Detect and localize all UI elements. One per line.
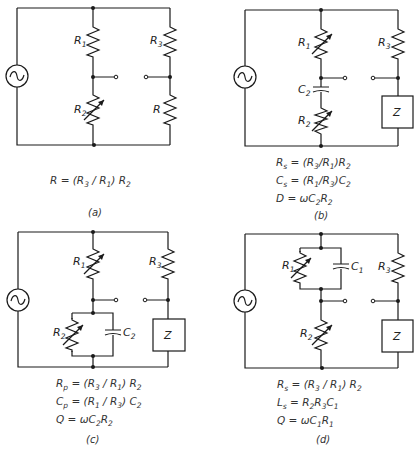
terminal-icon — [114, 75, 118, 79]
panel-a-equations: R = (R3 / R1) R2 (a) — [50, 174, 131, 218]
resistor-r1-icon — [87, 25, 99, 59]
panel-c-equations: Rp = (R3 / R1) R2 Cp = (R1 / R3) C2 Q = … — [56, 377, 142, 445]
capacitor-c2-icon — [105, 330, 121, 335]
label-r1: R1 — [74, 34, 86, 49]
capacitor-c2-icon — [313, 87, 329, 92]
caption-d: (d) — [316, 434, 330, 445]
equation-rp: Rp = (R3 / R1) R2 — [56, 377, 142, 392]
equation-rs: Rs = (R3/R1)R2 — [276, 156, 351, 171]
ac-source-icon — [234, 290, 256, 312]
label-z: Z — [163, 329, 172, 342]
resistor-r1-icon — [294, 251, 306, 285]
label-r2: R2 — [53, 326, 66, 341]
label-r2: R2 — [74, 103, 87, 118]
resistor-r3-icon — [392, 251, 404, 285]
panel-b-circuit: R1 C2 R2 R3 Z — [234, 8, 413, 148]
label-r1: R1 — [298, 36, 310, 51]
resistor-r1-icon — [315, 27, 327, 61]
caption-a: (a) — [88, 207, 102, 218]
label-r3: R3 — [150, 34, 163, 49]
ac-source-icon — [6, 65, 28, 87]
label-r3: R3 — [149, 255, 162, 270]
equation-r: R = (R3 / R1) R2 — [50, 174, 131, 189]
label-c2: C2 — [298, 83, 311, 98]
label-r1: R1 — [73, 255, 85, 270]
resistor-r2-icon — [66, 318, 78, 352]
label-r1: R1 — [282, 259, 294, 274]
label-z: Z — [392, 330, 401, 343]
resistor-r3-icon — [164, 25, 176, 59]
resistor-r3-icon — [162, 247, 174, 281]
equation-rs: Rs = (R3 / R1) R2 — [277, 378, 362, 393]
terminal-icon — [144, 75, 148, 79]
label-r: R — [153, 103, 161, 116]
resistor-r-icon — [164, 93, 176, 127]
resistor-r3-icon — [392, 27, 404, 61]
label-c2: C2 — [123, 326, 136, 341]
caption-b: (b) — [314, 210, 328, 221]
panel-d-circuit: R1 C1 R2 R3 Z — [234, 232, 413, 370]
label-r3: R3 — [378, 36, 391, 51]
label-r2: R2 — [298, 114, 311, 129]
label-r3: R3 — [378, 260, 391, 275]
resistor-r2-icon — [315, 106, 327, 136]
equation-cs: Cs = (R1/R3)C2 — [276, 174, 351, 189]
equation-cp: Cp = (R1 / R3) C2 — [56, 395, 142, 410]
ac-source-icon — [7, 289, 29, 311]
label-c1: C1 — [351, 260, 363, 275]
capacitor-c1-icon — [333, 264, 349, 269]
caption-c: (c) — [86, 434, 99, 445]
equation-ls: Ls = R2R3C1 — [277, 396, 339, 411]
panel-b-equations: Rs = (R3/R1)R2 Cs = (R1/R3)C2 D = ωC2R2 … — [276, 156, 351, 221]
resistor-r2-icon — [87, 93, 99, 127]
equation-q: Q = ωC1R1 — [277, 414, 334, 429]
panel-a-circuit: R1 R2 R3 R — [6, 6, 176, 147]
variable-arrow-icon — [312, 111, 332, 131]
panel-d-equations: Rs = (R3 / R1) R2 Ls = R2R3C1 Q = ωC1R1 … — [277, 378, 362, 445]
panel-c-circuit: R1 R2 C2 R3 Z — [7, 230, 185, 369]
bridge-circuits-figure: R1 R2 R3 R R = (R3 / R1) R2 (a) R1 C2 R2… — [0, 0, 419, 454]
equation-q: Q = ωC2R2 — [56, 413, 113, 428]
label-z: Z — [392, 106, 401, 119]
ac-source-icon — [234, 66, 256, 88]
resistor-r1-icon — [87, 247, 99, 281]
resistor-r2-icon — [315, 318, 327, 352]
equation-d: D = ωC2R2 — [276, 192, 333, 207]
label-r2: R2 — [300, 327, 313, 342]
